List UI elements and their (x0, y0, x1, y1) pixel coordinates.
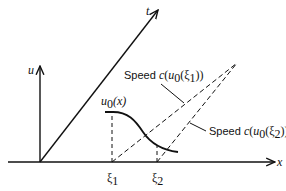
u-axis-label: u (28, 63, 34, 77)
xi2-tick-label: ξ2 (152, 171, 163, 188)
characteristics-diagram: x u t u0(x) ξ1 ξ2 Speed c(u0(ξ1)) Speed … (0, 0, 286, 191)
curve-label: u0(x) (101, 94, 126, 111)
x-axis-label: x (276, 155, 283, 169)
speed-xi1-label: Speed c(u0(ξ1)) (124, 68, 204, 85)
t-axis-label: t (146, 4, 150, 18)
initial-profile-curve (105, 112, 178, 152)
speed-xi2-label: Speed c(u0(ξ2)) (209, 124, 286, 141)
xi1-tick-label: ξ1 (107, 171, 118, 188)
speed-xi2-leader (190, 123, 206, 131)
speed-xi1-leader (161, 84, 184, 103)
